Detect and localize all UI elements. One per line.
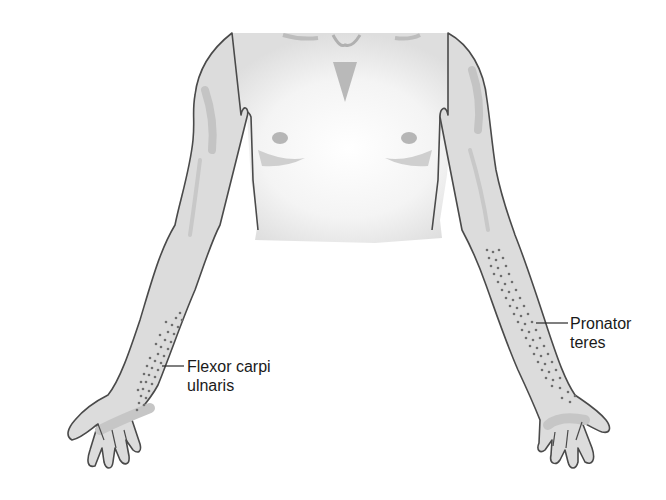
label-flexor-carpi-ulnaris-line2: ulnaris: [187, 376, 271, 395]
anatomy-illustration: [0, 0, 666, 500]
label-flexor-carpi-ulnaris: Flexor carpi ulnaris: [187, 357, 271, 395]
label-pronator-teres: Pronator teres: [570, 314, 631, 352]
right-arm: [440, 33, 609, 468]
torso: [215, 33, 482, 243]
label-pronator-teres-line2: teres: [570, 333, 631, 352]
left-arm: [68, 33, 248, 468]
label-flexor-carpi-ulnaris-line1: Flexor carpi: [187, 357, 271, 376]
label-pronator-teres-line1: Pronator: [570, 314, 631, 333]
